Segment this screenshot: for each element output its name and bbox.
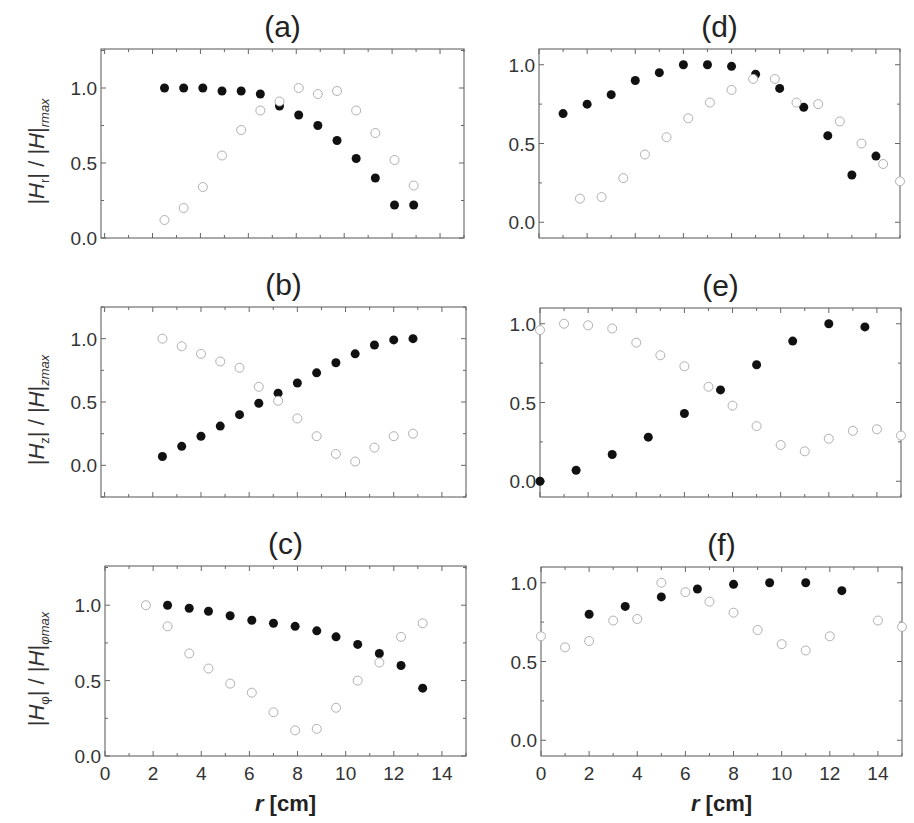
x-tick-label: 2 xyxy=(584,763,595,784)
data-point-open xyxy=(800,447,809,456)
data-point-open xyxy=(353,676,362,685)
panel-b: 0.00.51.0(b)|Hz| / |H|zmax xyxy=(24,268,466,497)
plot-frame xyxy=(105,566,466,756)
x-tick-label: 12 xyxy=(819,763,840,784)
data-point-filled xyxy=(294,111,303,120)
x-tick-label: 12 xyxy=(383,763,404,784)
data-point-open xyxy=(179,204,188,213)
data-point-open xyxy=(409,181,418,190)
data-point-open xyxy=(857,139,866,148)
data-point-open xyxy=(158,334,167,343)
data-point-filled xyxy=(788,337,797,346)
y-tick-label: 0.5 xyxy=(71,392,97,413)
data-point-filled xyxy=(218,87,227,96)
data-point-open xyxy=(237,126,246,135)
data-point-open xyxy=(825,632,834,641)
data-point-filled xyxy=(837,586,846,595)
data-point-filled xyxy=(371,174,380,183)
data-point-filled xyxy=(235,410,244,419)
data-point-open xyxy=(727,85,736,94)
data-point-open xyxy=(684,114,693,123)
x-tick-label: 6 xyxy=(244,763,255,784)
data-point-filled xyxy=(226,611,235,620)
data-point-open xyxy=(835,117,844,126)
data-point-open xyxy=(873,616,882,625)
data-point-filled xyxy=(351,349,360,358)
data-point-filled xyxy=(572,466,581,475)
data-point-open xyxy=(640,150,649,159)
data-point-open xyxy=(163,622,172,631)
x-tick-label: 8 xyxy=(728,763,739,784)
data-point-open xyxy=(397,632,406,641)
y-tick-label: 0.5 xyxy=(511,652,537,673)
data-point-filled xyxy=(847,171,856,180)
data-point-open xyxy=(770,74,779,83)
data-point-filled xyxy=(256,90,265,99)
y-axis-label: |Hz| / |H|zmax xyxy=(24,354,52,465)
data-point-open xyxy=(536,326,545,335)
y-axis-label: |Hφ| / |H|φmax xyxy=(24,611,52,726)
x-tick-label: 10 xyxy=(771,763,792,784)
data-point-open xyxy=(141,601,150,610)
data-point-filled xyxy=(313,121,322,130)
y-tick-label: 1.0 xyxy=(71,78,97,99)
data-point-filled xyxy=(729,580,738,589)
data-point-open xyxy=(537,632,546,641)
data-point-filled xyxy=(216,422,225,431)
data-point-filled xyxy=(370,341,379,350)
data-point-open xyxy=(814,100,823,109)
data-point-filled xyxy=(204,607,213,616)
data-point-filled xyxy=(716,385,725,394)
data-point-filled xyxy=(247,616,256,625)
data-point-open xyxy=(333,87,342,96)
data-point-open xyxy=(681,588,690,597)
x-tick-label: 14 xyxy=(867,763,889,784)
panel-title: (b) xyxy=(265,268,302,301)
data-point-filled xyxy=(269,619,278,628)
data-point-open xyxy=(608,324,617,333)
data-point-filled xyxy=(693,585,702,594)
data-point-open xyxy=(633,614,642,623)
panel-title: (e) xyxy=(702,269,739,302)
data-point-open xyxy=(792,98,801,107)
data-point-open xyxy=(204,664,213,673)
data-point-filled xyxy=(408,334,417,343)
data-point-filled xyxy=(160,84,169,93)
data-point-open xyxy=(269,708,278,717)
data-point-open xyxy=(584,321,593,330)
panel-a: 0.00.51.0(a)|Hr| / |H|rmax xyxy=(24,10,464,249)
data-point-filled xyxy=(585,610,594,619)
data-point-open xyxy=(753,626,762,635)
data-point-filled xyxy=(644,433,653,442)
x-axis-label: r [cm] xyxy=(255,791,316,816)
x-tick-label: 14 xyxy=(431,763,453,784)
panel-d: 0.00.51.0(d) xyxy=(509,10,905,238)
data-point-filled xyxy=(198,84,207,93)
data-point-open xyxy=(585,637,594,646)
y-tick-label: 0.5 xyxy=(509,134,535,155)
data-point-open xyxy=(351,457,360,466)
data-point-filled xyxy=(254,399,263,408)
y-tick-label: 1.0 xyxy=(510,314,536,335)
y-tick-label: 1.0 xyxy=(71,329,97,350)
data-point-open xyxy=(375,658,384,667)
data-point-filled xyxy=(703,60,712,69)
y-tick-label: 0.0 xyxy=(71,228,97,249)
data-point-open xyxy=(198,183,207,192)
data-point-open xyxy=(801,646,810,655)
data-point-open xyxy=(824,434,833,443)
data-point-open xyxy=(749,74,758,83)
data-point-filled xyxy=(824,319,833,328)
y-tick-label: 0.5 xyxy=(71,153,97,174)
data-point-open xyxy=(657,578,666,587)
data-point-open xyxy=(390,156,399,165)
data-point-filled xyxy=(177,442,186,451)
data-point-filled xyxy=(679,60,688,69)
data-point-open xyxy=(247,688,256,697)
data-point-filled xyxy=(237,87,246,96)
data-point-filled xyxy=(353,640,362,649)
data-point-open xyxy=(704,382,713,391)
data-point-open xyxy=(728,401,737,410)
plot-frame xyxy=(101,49,464,238)
y-tick-label: 0.0 xyxy=(71,455,97,476)
